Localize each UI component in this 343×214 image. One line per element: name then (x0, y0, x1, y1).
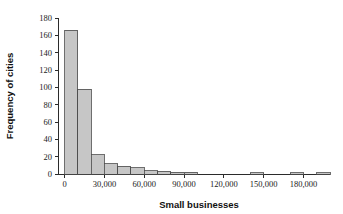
histogram-bar (290, 173, 303, 174)
y-tick-label: 100 (39, 82, 52, 92)
x-tick-label: 60,000 (133, 179, 156, 189)
histogram-bar (78, 89, 91, 174)
y-tick-label: 120 (39, 65, 52, 75)
y-axis-title: Frequency of cities (4, 53, 15, 140)
histogram-bar (104, 164, 117, 174)
histogram-bar (118, 166, 131, 174)
y-tick-label: 80 (44, 100, 53, 110)
y-axis-ticks: 020406080100120140160180 (39, 13, 58, 179)
y-tick-label: 160 (39, 30, 52, 40)
x-tick-label: 30,000 (93, 179, 116, 189)
histogram-bar (91, 155, 104, 174)
x-tick-label: 0 (63, 179, 67, 189)
histogram-bar (65, 30, 78, 174)
y-tick-label: 60 (44, 117, 53, 127)
y-tick-label: 140 (39, 48, 52, 58)
histogram-bar (158, 171, 171, 174)
x-axis-ticks: 030,00060,00090,000120,000150,000180,000 (63, 174, 318, 189)
histogram-bar (250, 173, 263, 174)
histogram-chart: 020406080100120140160180 030,00060,00090… (0, 0, 343, 214)
histogram-bar (131, 168, 144, 174)
x-tick-label: 90,000 (172, 179, 195, 189)
histogram-bar (317, 173, 330, 174)
chart-canvas: 020406080100120140160180 030,00060,00090… (0, 0, 343, 214)
histogram-bar (171, 172, 184, 174)
y-tick-label: 180 (39, 13, 52, 23)
x-tick-label: 180,000 (290, 179, 318, 189)
x-tick-label: 120,000 (210, 179, 238, 189)
y-tick-label: 40 (44, 134, 53, 144)
y-tick-label: 20 (44, 152, 53, 162)
x-axis-title: Small businesses (159, 199, 239, 210)
y-axis-group: 020406080100120140160180 (39, 13, 58, 179)
histogram-bars (65, 30, 330, 174)
histogram-bar (144, 171, 157, 174)
y-tick-label: 0 (48, 169, 52, 179)
x-tick-label: 150,000 (250, 179, 278, 189)
histogram-bar (184, 172, 197, 174)
x-axis-group: 030,00060,00090,000120,000150,000180,000 (58, 174, 330, 189)
